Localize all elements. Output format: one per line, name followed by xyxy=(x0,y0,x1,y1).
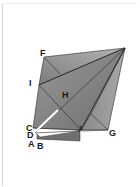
label-J: J xyxy=(78,125,82,132)
diagram-frame: F I H C D A B J G xyxy=(0,0,140,187)
label-F: F xyxy=(40,48,46,58)
label-G: G xyxy=(109,128,116,138)
label-A: A xyxy=(28,139,35,149)
label-B: B xyxy=(37,141,44,151)
fold-diagram: F I H C D A B J G xyxy=(0,0,140,187)
label-H: H xyxy=(62,90,69,100)
label-I: I xyxy=(29,78,32,88)
